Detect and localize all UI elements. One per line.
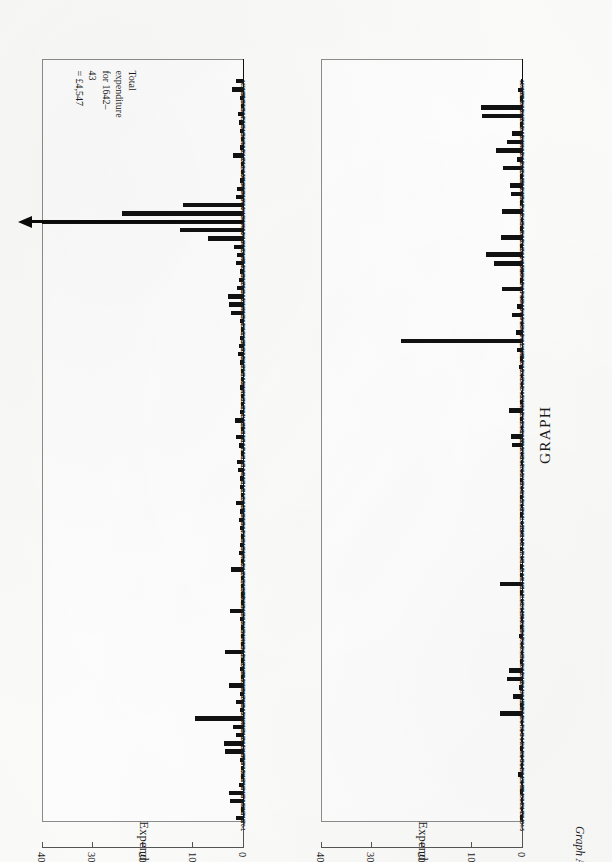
bar [195, 716, 243, 720]
bar [481, 105, 522, 110]
value-axis-tick [371, 842, 372, 848]
value-axis-title: Expenditure in pounds [414, 821, 429, 862]
bar [494, 261, 522, 266]
category-axis-label: 1569-70 [519, 80, 525, 98]
caption-text: Annual expenditure on the city defences,… [574, 858, 586, 862]
value-axis-tick [243, 842, 244, 848]
value-axis-tick [92, 842, 93, 848]
value-axis-tick [42, 842, 43, 848]
figure-caption: Graph Annual expenditure on the city def… [574, 826, 586, 862]
value-axis-tick [321, 842, 322, 848]
bar [183, 203, 243, 207]
scanned-page: GRAPH 4003002001000Expenditure in pounds… [0, 0, 612, 862]
offscale-arrow-head [18, 216, 32, 228]
plot-frame [321, 59, 522, 822]
bar [482, 114, 522, 119]
value-axis-title: Expenditure in pounds [135, 821, 150, 862]
bar [486, 252, 522, 257]
value-axis-tick [192, 842, 193, 848]
value-axis-tick [522, 842, 523, 848]
caption-label: Graph [574, 826, 586, 856]
offscale-arrow-shaft [31, 220, 243, 223]
bar [122, 211, 243, 215]
rotated-figure-canvas: GRAPH 4003002001000Expenditure in pounds… [0, 0, 612, 862]
bar [401, 339, 522, 344]
offscale-annotation: Total expenditure for 1642–43 = £4,547 [73, 70, 139, 117]
section-heading: GRAPH [536, 406, 554, 464]
category-axis-label: 1659-60 [240, 80, 246, 98]
bar [180, 228, 243, 232]
value-axis-tick [471, 842, 472, 848]
plot-frame [42, 59, 243, 822]
bar [208, 236, 243, 240]
